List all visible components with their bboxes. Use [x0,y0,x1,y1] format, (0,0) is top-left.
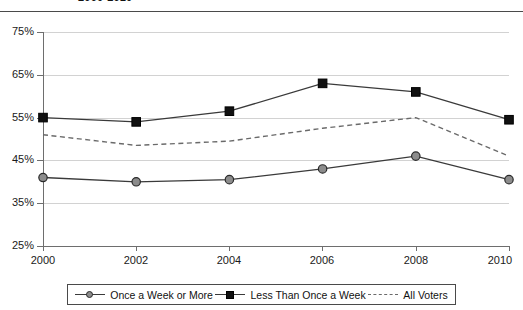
x-tick-mark-2006 [322,246,323,251]
legend-item-once-a-week-or-more[interactable]: Once a Week or More [75,289,213,301]
x-tick-mark-2008 [416,246,417,251]
x-tick-label-2010: 2010 [475,254,523,266]
x-axis-line [43,246,509,247]
y-tick-mark-35 [37,203,43,204]
legend-item-less-than-once-a-week[interactable]: Less Than Once a Week [215,289,365,301]
legend-label-less-than-once-a-week: Less Than Once a Week [250,289,365,301]
y-axis-line [43,32,44,247]
legend-item-all-voters[interactable]: All Voters [368,289,447,301]
y-tick-label-35: 35% [0,196,34,208]
chart-title: 2000-2010 [78,0,132,3]
gridline-75 [43,32,509,33]
x-tick-label-2004: 2004 [204,254,254,266]
line-chart: 2000-2010 75% 65% 55% 45% 35% 25% 2000 2… [0,0,523,310]
gridline-65 [43,75,509,76]
x-tick-mark-2004 [229,246,230,251]
y-tick-label-75: 75% [0,25,34,37]
x-tick-mark-2002 [136,246,137,251]
x-tick-label-2006: 2006 [297,254,347,266]
gridline-45 [43,160,509,161]
y-tick-mark-45 [37,160,43,161]
y-tick-mark-75 [37,32,43,33]
x-tick-mark-2000 [43,246,44,251]
y-tick-mark-55 [37,118,43,119]
gridline-35 [43,203,509,204]
x-tick-mark-2010 [509,246,510,251]
x-tick-label-2008: 2008 [391,254,441,266]
y-tick-label-65: 65% [0,68,34,80]
y-tick-label-25: 25% [0,239,34,251]
y-tick-label-45: 45% [0,153,34,165]
x-tick-label-2000: 2000 [18,254,68,266]
gridline-55 [43,118,509,119]
legend-label-all-voters: All Voters [403,289,447,301]
y-tick-label-55: 55% [0,111,34,123]
title-divider [0,11,523,12]
legend-label-once-a-week-or-more: Once a Week or More [110,289,213,301]
plot-area [43,32,509,246]
x-tick-label-2002: 2002 [111,254,161,266]
circle-marker-icon [75,289,105,300]
chart-legend: Once a Week or More Less Than Once a Wee… [67,284,456,305]
square-marker-icon [215,289,245,300]
y-tick-mark-65 [37,75,43,76]
dashed-line-icon [368,289,398,300]
